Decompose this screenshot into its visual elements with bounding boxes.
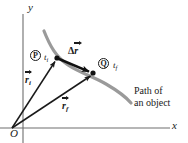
object-path-curve bbox=[44, 31, 131, 103]
time-label-final-subscript: f bbox=[116, 64, 118, 71]
physics-displacement-diagram: y x O P ti Q tf Δr ri rf Path of an obje… bbox=[0, 0, 188, 143]
r-final-subscript: f bbox=[66, 105, 68, 113]
path-caption-line-1: Path of bbox=[134, 85, 163, 97]
point-marker-p-dot bbox=[54, 55, 59, 60]
vector-label-delta-r: Δr bbox=[68, 46, 78, 56]
vector-r-final bbox=[12, 76, 91, 128]
r-initial-symbol: r bbox=[25, 75, 29, 85]
r-initial-subscript: i bbox=[29, 79, 31, 87]
time-label-initial-subscript: i bbox=[47, 56, 49, 63]
r-final-symbol: r bbox=[62, 101, 66, 111]
time-label-final: tf bbox=[113, 61, 117, 71]
vector-r-initial bbox=[12, 62, 55, 129]
delta-r-symbol: r bbox=[74, 46, 78, 56]
y-axis-label: y bbox=[28, 2, 33, 13]
path-caption-line-2: an object bbox=[134, 97, 170, 109]
point-marker-q: Q bbox=[98, 58, 109, 69]
time-label-initial: ti bbox=[44, 53, 48, 63]
x-axis-label: x bbox=[172, 120, 177, 131]
vector-label-r-final: rf bbox=[62, 101, 68, 113]
origin-label: O bbox=[10, 128, 18, 139]
vector-label-r-initial: ri bbox=[25, 75, 31, 87]
point-marker-p: P bbox=[30, 50, 41, 61]
point-marker-q-dot bbox=[90, 70, 95, 75]
